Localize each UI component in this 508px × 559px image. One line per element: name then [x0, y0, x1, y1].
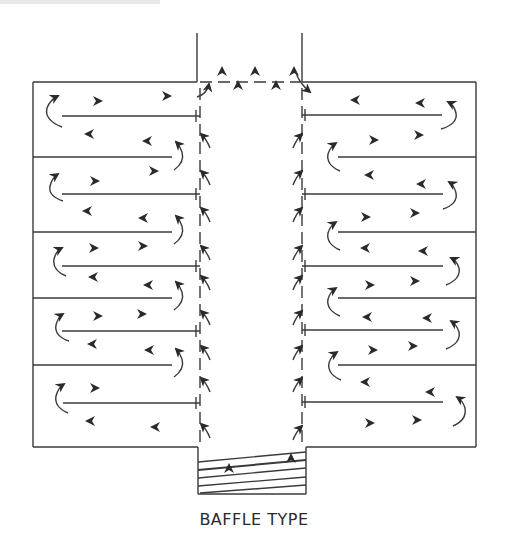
right-uturn-arrows: [441, 102, 465, 426]
right-corridor-arrows: [293, 134, 302, 440]
left-flow-arrowheads: [82, 91, 172, 432]
right-uturn-corridor-arrows: [328, 143, 341, 380]
right-inner-baffles: [302, 109, 443, 408]
left-uturn-corridor-arrows: [174, 142, 183, 377]
left-corridor-arrows: [201, 134, 210, 438]
left-inner-baffles: [62, 110, 200, 409]
outlet-channel: [197, 33, 302, 82]
figure-caption: BAFFLE TYPE: [0, 510, 508, 529]
diagram-svg: [0, 0, 508, 559]
outer-box: [33, 82, 476, 447]
right-flow-arrowheads: [350, 95, 435, 428]
central-corridor: [200, 88, 302, 447]
baffle-diagram: BAFFLE TYPE: [0, 0, 508, 559]
inlet-baffle-box: [198, 447, 306, 494]
cropped-header-text: [0, 0, 160, 4]
